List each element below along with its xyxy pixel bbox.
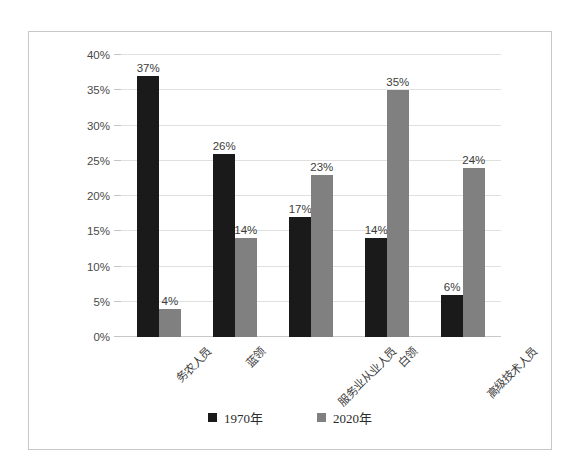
bar-group: 6%24% bbox=[425, 55, 501, 337]
legend-item-1[interactable]: 1970年 bbox=[208, 408, 263, 427]
y-tick-mark bbox=[114, 230, 121, 231]
x-tick-label: 白领 bbox=[393, 343, 420, 370]
y-tick-label: 5% bbox=[93, 296, 110, 308]
bar-value-label: 6% bbox=[444, 281, 461, 293]
y-tick-label: 20% bbox=[87, 190, 110, 202]
y-tick-mark bbox=[114, 54, 121, 55]
bar-value-label: 4% bbox=[162, 295, 179, 307]
legend-item-2[interactable]: 2020年 bbox=[317, 408, 372, 427]
legend-label: 2020年 bbox=[333, 408, 372, 427]
top-caption bbox=[0, 0, 579, 10]
y-tick-mark bbox=[114, 301, 121, 302]
x-tick-label: 服务业从业人员 bbox=[334, 343, 400, 409]
x-tick-label: 务农人员 bbox=[172, 343, 214, 385]
bar-1-3[interactable]: 17% bbox=[289, 217, 311, 337]
bar-2-1[interactable]: 4% bbox=[159, 309, 181, 337]
y-tick-label: 35% bbox=[87, 84, 110, 96]
bar-1-5[interactable]: 6% bbox=[441, 295, 463, 337]
plot-area: 0%5%10%15%20%25%30%35%40% 37%4%26%14%17%… bbox=[121, 55, 501, 337]
bar-group: 17%23% bbox=[273, 55, 349, 337]
y-tick-label: 0% bbox=[93, 331, 110, 343]
bar-value-label: 24% bbox=[462, 154, 485, 166]
bar-value-label: 14% bbox=[234, 224, 257, 236]
y-tick-mark bbox=[114, 195, 121, 196]
chart-legend: 1970年2020年 bbox=[29, 408, 551, 427]
bar-value-label: 35% bbox=[386, 76, 409, 88]
y-tick-mark bbox=[114, 266, 121, 267]
bar-value-label: 17% bbox=[289, 203, 312, 215]
bar-2-2[interactable]: 14% bbox=[235, 238, 257, 337]
bar-2-5[interactable]: 24% bbox=[463, 168, 485, 337]
bar-value-label: 23% bbox=[310, 161, 333, 173]
y-tick-mark bbox=[114, 89, 121, 90]
bar-value-label: 26% bbox=[213, 140, 236, 152]
y-tick-label: 25% bbox=[87, 155, 110, 167]
x-tick-label: 蓝领 bbox=[241, 343, 268, 370]
chart-frame: 0%5%10%15%20%25%30%35%40% 37%4%26%14%17%… bbox=[28, 31, 552, 450]
bar-value-label: 37% bbox=[137, 62, 160, 74]
y-tick-label: 10% bbox=[87, 261, 110, 273]
legend-label: 1970年 bbox=[224, 408, 263, 427]
y-tick-label: 30% bbox=[87, 120, 110, 132]
y-tick-label: 15% bbox=[87, 225, 110, 237]
legend-swatch-icon bbox=[317, 413, 326, 422]
bar-2-3[interactable]: 23% bbox=[311, 175, 333, 337]
x-tick-label: 高级技术人员 bbox=[482, 343, 540, 401]
bar-group: 37%4% bbox=[121, 55, 197, 337]
bar-1-4[interactable]: 14% bbox=[365, 238, 387, 337]
bar-group: 26%14% bbox=[197, 55, 273, 337]
bar-1-1[interactable]: 37% bbox=[137, 76, 159, 337]
bar-group: 14%35% bbox=[349, 55, 425, 337]
y-tick-mark bbox=[114, 336, 121, 337]
bar-1-2[interactable]: 26% bbox=[213, 154, 235, 337]
y-tick-label: 40% bbox=[87, 49, 110, 61]
y-tick-mark bbox=[114, 160, 121, 161]
bar-2-4[interactable]: 35% bbox=[387, 90, 409, 337]
bar-value-label: 14% bbox=[365, 224, 388, 236]
legend-swatch-icon bbox=[208, 413, 217, 422]
y-tick-mark bbox=[114, 125, 121, 126]
